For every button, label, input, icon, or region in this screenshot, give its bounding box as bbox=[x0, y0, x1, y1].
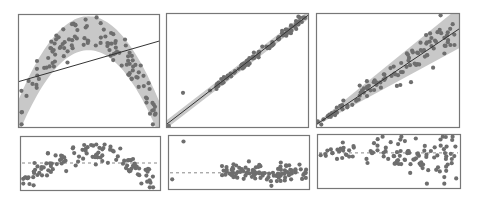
data-point bbox=[30, 82, 34, 86]
data-point bbox=[319, 153, 323, 157]
data-point bbox=[46, 56, 50, 60]
data-point bbox=[247, 159, 251, 163]
data-point bbox=[118, 146, 122, 150]
data-point bbox=[62, 160, 66, 164]
data-point bbox=[82, 43, 86, 47]
data-point bbox=[350, 103, 354, 107]
data-point bbox=[139, 63, 143, 67]
data-point bbox=[428, 40, 432, 44]
data-point bbox=[152, 108, 156, 112]
data-point bbox=[35, 59, 39, 63]
data-point bbox=[423, 144, 427, 148]
data-point bbox=[144, 95, 148, 99]
data-point bbox=[35, 67, 39, 71]
data-point bbox=[152, 103, 156, 107]
data-point bbox=[365, 161, 369, 165]
data-point bbox=[65, 60, 69, 64]
data-point bbox=[408, 171, 412, 175]
data-point bbox=[284, 34, 288, 38]
residual-panel-left bbox=[21, 137, 161, 191]
data-point bbox=[113, 41, 117, 45]
data-point bbox=[220, 164, 224, 168]
residual-panel-middle bbox=[169, 136, 310, 190]
data-point bbox=[27, 182, 31, 186]
panel-top-right bbox=[316, 7, 460, 127]
data-point bbox=[106, 161, 110, 165]
data-point bbox=[278, 167, 282, 171]
data-point bbox=[62, 155, 66, 159]
data-point bbox=[126, 59, 130, 63]
data-point bbox=[329, 147, 333, 151]
data-point bbox=[398, 83, 402, 87]
regression-diagnostics-figure bbox=[0, 0, 477, 201]
data-point bbox=[429, 36, 433, 40]
data-point bbox=[84, 18, 88, 22]
panel-frame bbox=[169, 136, 310, 190]
data-point bbox=[48, 64, 52, 68]
data-point bbox=[403, 139, 407, 143]
data-point bbox=[382, 151, 386, 155]
data-point bbox=[426, 168, 430, 172]
data-point bbox=[282, 172, 286, 176]
data-point bbox=[153, 113, 157, 117]
data-point bbox=[61, 27, 65, 31]
data-point bbox=[141, 74, 145, 78]
data-point bbox=[279, 160, 283, 164]
data-point bbox=[444, 157, 448, 161]
data-point bbox=[365, 94, 369, 98]
data-point bbox=[151, 175, 155, 179]
data-point bbox=[181, 91, 185, 95]
data-point bbox=[223, 173, 227, 177]
data-point bbox=[131, 68, 135, 72]
data-point bbox=[446, 40, 450, 44]
data-point bbox=[392, 154, 396, 158]
data-point bbox=[139, 181, 143, 185]
data-point bbox=[35, 173, 39, 177]
data-point bbox=[260, 45, 264, 49]
data-point bbox=[31, 175, 35, 179]
data-point bbox=[451, 135, 455, 139]
data-point bbox=[95, 15, 99, 19]
data-point bbox=[382, 72, 386, 76]
data-point bbox=[407, 151, 411, 155]
data-point bbox=[413, 62, 417, 66]
data-point bbox=[114, 46, 118, 50]
data-point bbox=[365, 85, 369, 89]
data-point bbox=[151, 122, 155, 126]
data-point bbox=[100, 147, 104, 151]
data-point bbox=[276, 171, 280, 175]
data-point bbox=[252, 50, 256, 54]
data-point bbox=[442, 175, 446, 179]
data-point bbox=[432, 155, 436, 159]
data-point bbox=[21, 182, 25, 186]
data-point bbox=[381, 135, 385, 139]
data-point bbox=[267, 172, 271, 176]
data-point bbox=[372, 141, 376, 145]
data-point bbox=[99, 36, 103, 40]
data-point bbox=[341, 98, 345, 102]
data-point bbox=[297, 163, 301, 167]
data-point bbox=[240, 168, 244, 172]
data-point bbox=[389, 140, 393, 144]
data-point bbox=[81, 157, 85, 161]
data-point bbox=[414, 156, 418, 160]
data-point bbox=[54, 153, 58, 157]
data-point bbox=[137, 70, 141, 74]
data-point bbox=[453, 145, 457, 149]
regression-line bbox=[166, 15, 308, 124]
data-point bbox=[107, 48, 111, 52]
data-point bbox=[382, 154, 386, 158]
data-point bbox=[109, 42, 113, 46]
data-point bbox=[111, 58, 115, 62]
data-point bbox=[301, 173, 305, 177]
data-point bbox=[32, 170, 36, 174]
data-point bbox=[94, 162, 98, 166]
data-point bbox=[129, 158, 133, 162]
data-point bbox=[48, 46, 52, 50]
data-point bbox=[137, 85, 141, 89]
data-point bbox=[395, 159, 399, 163]
data-point bbox=[331, 151, 335, 155]
data-point bbox=[72, 151, 76, 155]
data-point bbox=[55, 162, 59, 166]
data-point bbox=[94, 142, 98, 146]
